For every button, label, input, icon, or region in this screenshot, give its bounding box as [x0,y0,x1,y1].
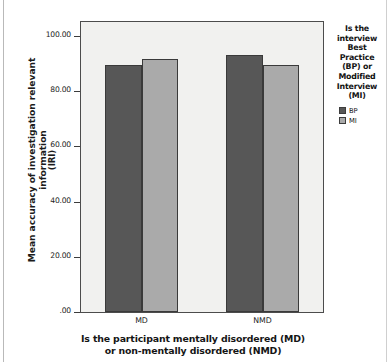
x-axis-title-line1: Is the participant mentally disordered (… [48,333,338,345]
y-tick: 20.00 [0,257,80,258]
y-tick: 100.00 [0,36,80,37]
y-tick-label: 40.00 [50,196,71,205]
legend: Is theinterviewBestPractice(BP) orModifi… [328,24,386,127]
bar-nmd-mi [263,65,300,312]
bar-chart-figure: Mean accuracy of investigation relevant … [0,0,389,362]
legend-items: BPMI [328,107,386,125]
legend-item-mi[interactable]: MI [339,117,386,125]
y-tick-label: 60.00 [50,140,71,149]
legend-title-line: interview [328,34,386,44]
y-tick-label: .00 [60,306,71,315]
y-tick: .00 [0,312,80,313]
page-edge-left-rule [3,0,4,362]
legend-label-mi: MI [349,117,357,125]
legend-title-line: Modified [328,72,386,82]
bars-layer [81,22,323,312]
y-tick: 40.00 [0,202,80,203]
legend-title-line: Best [328,43,386,53]
y-axis-title: Mean accuracy of investigation relevant … [27,35,57,285]
bar-md-mi [142,59,179,312]
y-axis-title-line1: Mean accuracy of investigation relevant … [26,58,48,262]
legend-label-bp: BP [349,107,358,115]
legend-title-line: Practice [328,53,386,63]
x-axis-title: Is the participant mentally disordered (… [48,333,338,356]
legend-title: Is theinterviewBestPractice(BP) orModifi… [328,24,386,101]
page-edge-right-rule [386,0,387,362]
legend-item-bp[interactable]: BP [339,107,386,115]
legend-title-line: (MI) [328,91,386,101]
x-tick-label-nmd: NMD [238,316,288,325]
legend-title-line: (BP) or [328,62,386,72]
y-tick: 60.00 [0,146,80,147]
legend-title-line: Is the [328,24,386,34]
y-tick: 80.00 [0,91,80,92]
y-tick-label: 100.00 [46,30,71,39]
bar-nmd-bp [226,55,263,312]
y-axis-title-line2: (IRI) [48,35,57,285]
legend-swatch-bp [339,107,346,114]
x-tick-label-md: MD [117,316,167,325]
y-tick-label: 20.00 [50,251,71,260]
x-axis-title-line2: or non-mentally disordered (NMD) [48,345,338,357]
legend-swatch-mi [339,117,346,124]
legend-title-line: Interview [328,82,386,92]
bar-md-bp [105,65,142,312]
y-tick-label: 80.00 [50,85,71,94]
